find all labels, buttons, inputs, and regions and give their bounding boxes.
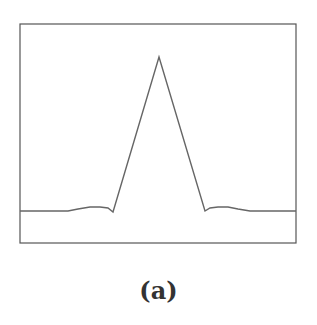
figure-caption: (a) — [0, 276, 317, 305]
plot-frame — [20, 24, 296, 243]
data-line — [20, 57, 296, 212]
